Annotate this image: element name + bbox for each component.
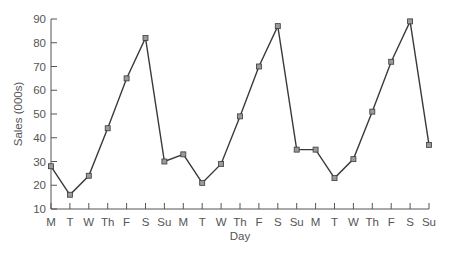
data-point-marker bbox=[332, 176, 337, 181]
data-point-marker bbox=[294, 147, 299, 152]
x-tick-label: M bbox=[311, 216, 321, 228]
data-point-marker bbox=[351, 157, 356, 162]
y-tick-label: 10 bbox=[33, 203, 46, 215]
x-tick-label: F bbox=[255, 216, 262, 228]
x-tick-label: F bbox=[123, 216, 130, 228]
x-tick-label: Su bbox=[157, 216, 171, 228]
y-tick-label: 80 bbox=[33, 37, 46, 49]
y-tick-label: 30 bbox=[33, 156, 46, 168]
data-point-marker bbox=[370, 109, 375, 114]
x-tick-label: T bbox=[66, 216, 73, 228]
y-tick-label: 70 bbox=[33, 61, 46, 73]
x-axis: MTWThFSSuMTWThFSSuMTWThFSSu bbox=[46, 203, 436, 228]
x-tick-label: Th bbox=[233, 216, 246, 228]
data-point-marker bbox=[67, 192, 72, 197]
data-point-marker bbox=[124, 76, 129, 81]
data-point-marker bbox=[86, 173, 91, 178]
x-tick-label: S bbox=[142, 216, 150, 228]
y-axis: 102030405060708090 bbox=[33, 13, 57, 215]
x-tick-label: S bbox=[406, 216, 414, 228]
data-point-marker bbox=[219, 161, 224, 166]
x-tick-label: F bbox=[388, 216, 395, 228]
data-point-marker bbox=[389, 59, 394, 64]
data-point-marker bbox=[238, 114, 243, 119]
x-tick-label: T bbox=[331, 216, 338, 228]
y-tick-label: 60 bbox=[33, 84, 46, 96]
data-point-marker bbox=[105, 126, 110, 131]
x-tick-label: W bbox=[83, 216, 94, 228]
data-point-marker bbox=[181, 152, 186, 157]
y-tick-label: 40 bbox=[33, 132, 46, 144]
data-point-marker bbox=[313, 147, 318, 152]
data-point-marker bbox=[143, 36, 148, 41]
x-tick-label: M bbox=[179, 216, 189, 228]
data-point-marker bbox=[275, 24, 280, 29]
x-tick-label: W bbox=[348, 216, 359, 228]
x-tick-label: Su bbox=[290, 216, 304, 228]
x-tick-label: Th bbox=[101, 216, 114, 228]
x-tick-label: Su bbox=[422, 216, 436, 228]
data-point-marker bbox=[200, 180, 205, 185]
x-tick-label: W bbox=[216, 216, 227, 228]
x-tick-label: M bbox=[46, 216, 56, 228]
line-chart: 102030405060708090 MTWThFSSuMTWThFSSuMTW… bbox=[0, 0, 452, 256]
x-axis-title: Day bbox=[230, 230, 251, 242]
data-series bbox=[49, 19, 432, 197]
data-point-marker bbox=[49, 164, 54, 169]
y-tick-label: 50 bbox=[33, 108, 46, 120]
x-tick-label: S bbox=[274, 216, 282, 228]
x-tick-label: T bbox=[199, 216, 206, 228]
series-line bbox=[51, 21, 429, 194]
data-point-marker bbox=[427, 142, 432, 147]
y-axis-title: Sales (000s) bbox=[12, 82, 24, 147]
data-point-marker bbox=[162, 159, 167, 164]
y-tick-label: 20 bbox=[33, 179, 46, 191]
data-point-marker bbox=[256, 64, 261, 69]
data-point-marker bbox=[408, 19, 413, 24]
y-tick-label: 90 bbox=[33, 13, 46, 25]
x-tick-label: Th bbox=[366, 216, 379, 228]
